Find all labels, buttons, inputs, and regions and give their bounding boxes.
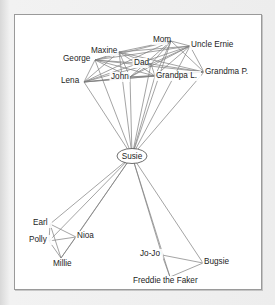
graph-edge: [50, 156, 132, 224]
node-label-bugsie[interactable]: Bugsie: [204, 257, 229, 266]
graph-edge: [49, 237, 76, 241]
node-label-earl[interactable]: Earl: [33, 218, 48, 227]
graph-edge: [132, 156, 203, 263]
node-label-maxine[interactable]: Maxine: [91, 46, 118, 55]
figure-root: Susie GeorgeMaxineMomUncle ErnieDadGrand…: [0, 0, 275, 305]
graph-edge: [61, 237, 76, 258]
graph-edge: [170, 263, 203, 277]
graph-edge: [49, 156, 132, 241]
graph-edge: [132, 72, 204, 156]
node-label-mom[interactable]: Mom: [153, 35, 171, 44]
node-label-grandpa[interactable]: Grandpa L.: [156, 71, 197, 80]
node-label-grandma[interactable]: Grandma P.: [205, 67, 248, 76]
node-label-lena[interactable]: Lena: [61, 76, 80, 85]
node-label-nioa[interactable]: Nioa: [77, 231, 94, 240]
node-label-jojo[interactable]: Jo-Jo: [140, 249, 160, 258]
node-label-john[interactable]: John: [111, 72, 129, 81]
graph-edge: [132, 76, 155, 156]
ego-node-label: Susie: [122, 152, 143, 161]
diagram-panel: Susie GeorgeMaxineMomUncle ErnieDadGrand…: [14, 14, 262, 290]
node-label-freddie[interactable]: Freddie the Faker: [133, 276, 198, 285]
node-label-dad[interactable]: Dad: [134, 58, 149, 67]
node-label-george[interactable]: George: [63, 54, 91, 63]
network-graph: Susie GeorgeMaxineMomUncle ErnieDadGrand…: [15, 15, 263, 291]
node-label-millie[interactable]: Millie: [53, 259, 72, 268]
node-label-uncle[interactable]: Uncle Ernie: [191, 40, 234, 49]
graph-edge: [162, 255, 203, 263]
ego-node-layer: Susie: [117, 149, 147, 164]
node-label-polly[interactable]: Polly: [29, 235, 48, 244]
